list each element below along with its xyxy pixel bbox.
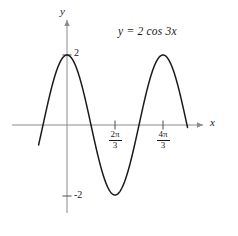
- y-axis-arrowhead: [64, 20, 69, 26]
- x-tick-0-denominator: 3: [102, 141, 128, 150]
- x-axis: [12, 122, 203, 127]
- y-axis-label: y: [60, 6, 65, 17]
- equation-annotation: y = 2 cos 3x: [118, 26, 177, 38]
- graph-figure: y x y = 2 cos 3x 2 -2 2π 3 4π 3: [0, 0, 238, 236]
- y-tick-label-2: 2: [74, 48, 79, 58]
- x-axis-label: x: [210, 117, 215, 128]
- x-tick-1-numerator: 4π: [150, 130, 176, 139]
- x-axis-arrowhead: [197, 122, 203, 127]
- x-tick-1-denominator: 3: [150, 141, 176, 150]
- y-axis: [64, 20, 69, 213]
- x-tick-label-4pi-over-3: 4π 3: [150, 130, 176, 151]
- x-tick-label-2pi-over-3: 2π 3: [102, 130, 128, 151]
- x-tick-0-numerator: 2π: [102, 130, 128, 139]
- y-tick-label-negative-2: -2: [74, 190, 82, 200]
